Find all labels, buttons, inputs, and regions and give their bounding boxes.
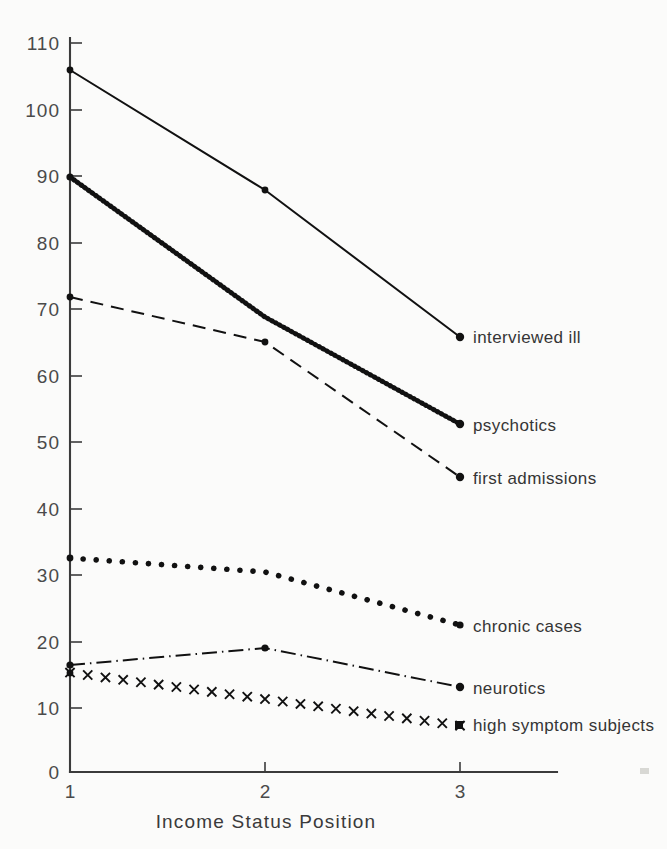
series-label-first-admissions: first admissions bbox=[473, 469, 597, 488]
data-point-marker bbox=[67, 294, 74, 301]
line-chart: 110 100 90 80 70 60 50 40 30 20 10 0 1 2… bbox=[0, 0, 667, 849]
series-line-chronic-cases bbox=[70, 558, 460, 625]
series-label-high-symptom-subjects: high symptom subjects bbox=[473, 716, 654, 735]
data-point-marker bbox=[349, 707, 358, 716]
y-tick-label-10: 10 bbox=[37, 698, 60, 719]
data-point-marker bbox=[456, 621, 463, 628]
y-tick-label-0: 0 bbox=[48, 762, 60, 783]
data-point-marker bbox=[296, 699, 305, 708]
data-point-marker bbox=[67, 670, 74, 677]
data-point-marker bbox=[119, 675, 128, 684]
x-tick-label-3: 3 bbox=[455, 781, 466, 802]
data-point-marker bbox=[456, 420, 464, 428]
x-tick-marks bbox=[265, 762, 460, 772]
data-point-marker bbox=[83, 670, 92, 679]
series-high-symptom-subjects: high symptom subjects bbox=[65, 668, 654, 735]
chart-page: 110 100 90 80 70 60 50 40 30 20 10 0 1 2… bbox=[0, 0, 667, 849]
data-point-marker bbox=[261, 644, 268, 651]
data-point-marker bbox=[456, 473, 464, 481]
data-point-marker bbox=[331, 704, 340, 713]
y-tick-marks bbox=[70, 43, 82, 708]
data-point-marker bbox=[456, 333, 464, 341]
y-tick-label-100: 100 bbox=[25, 100, 60, 121]
series-line-neurotics bbox=[70, 648, 460, 687]
data-point-marker bbox=[402, 714, 411, 723]
data-point-marker bbox=[101, 673, 110, 682]
y-tick-label-20: 20 bbox=[37, 632, 60, 653]
data-point-marker bbox=[154, 680, 163, 689]
data-point-marker bbox=[66, 661, 73, 668]
y-tick-label-70: 70 bbox=[37, 299, 60, 320]
y-tick-label-60: 60 bbox=[37, 366, 60, 387]
series-psychotics: psychotics bbox=[66, 173, 556, 435]
series-first-admissions: first admissions bbox=[67, 294, 597, 488]
y-tick-labels: 110 100 90 80 70 60 50 40 30 20 10 0 bbox=[25, 33, 60, 783]
y-tick-label-30: 30 bbox=[37, 565, 60, 586]
data-point-marker bbox=[367, 709, 376, 718]
x-tick-label-1: 1 bbox=[65, 781, 76, 802]
series-line-psychotics bbox=[70, 177, 460, 424]
data-point-marker bbox=[136, 678, 145, 687]
y-tick-label-50: 50 bbox=[37, 432, 60, 453]
series-label-psychotics: psychotics bbox=[473, 416, 556, 435]
data-point-marker bbox=[456, 683, 464, 691]
data-point-marker bbox=[67, 67, 74, 74]
data-point-marker bbox=[438, 719, 447, 728]
data-point-marker bbox=[189, 685, 198, 694]
data-point-marker bbox=[225, 690, 234, 699]
data-point-marker bbox=[278, 697, 287, 706]
series-interviewed-ill: interviewed ill bbox=[67, 67, 581, 347]
series-line-interviewed-ill bbox=[70, 70, 460, 337]
series-chronic-cases: chronic cases bbox=[67, 555, 583, 636]
data-point-marker bbox=[420, 716, 429, 725]
data-point-marker bbox=[262, 339, 269, 346]
series-label-neurotics: neurotics bbox=[473, 679, 546, 698]
data-point-marker bbox=[67, 555, 74, 562]
x-tick-label-2: 2 bbox=[260, 781, 271, 802]
axes-group bbox=[70, 38, 557, 772]
data-point-marker bbox=[314, 702, 323, 711]
data-point-marker bbox=[455, 721, 463, 729]
data-point-marker bbox=[384, 711, 393, 720]
series-label-chronic-cases: chronic cases bbox=[473, 617, 582, 636]
series-neurotics: neurotics bbox=[66, 644, 545, 698]
series-xmarks-high-symptom-subjects bbox=[65, 668, 464, 730]
data-point-marker bbox=[207, 687, 216, 696]
scan-artifact bbox=[640, 768, 649, 774]
data-point-marker bbox=[243, 692, 252, 701]
data-point-marker bbox=[172, 682, 181, 691]
y-tick-label-90: 90 bbox=[37, 166, 60, 187]
x-tick-labels: 1 2 3 bbox=[65, 781, 466, 802]
y-tick-label-40: 40 bbox=[37, 499, 60, 520]
x-axis-title: Income Status Position bbox=[156, 811, 377, 832]
series-line-first-admissions bbox=[70, 297, 460, 477]
y-tick-label-80: 80 bbox=[37, 233, 60, 254]
series-line-psychotics-overlay bbox=[70, 177, 460, 424]
data-point-marker bbox=[260, 695, 269, 704]
y-tick-label-110: 110 bbox=[27, 33, 60, 54]
series-label-interviewed-ill: interviewed ill bbox=[473, 328, 581, 347]
data-point-marker bbox=[262, 187, 269, 194]
data-point-marker bbox=[66, 173, 73, 180]
